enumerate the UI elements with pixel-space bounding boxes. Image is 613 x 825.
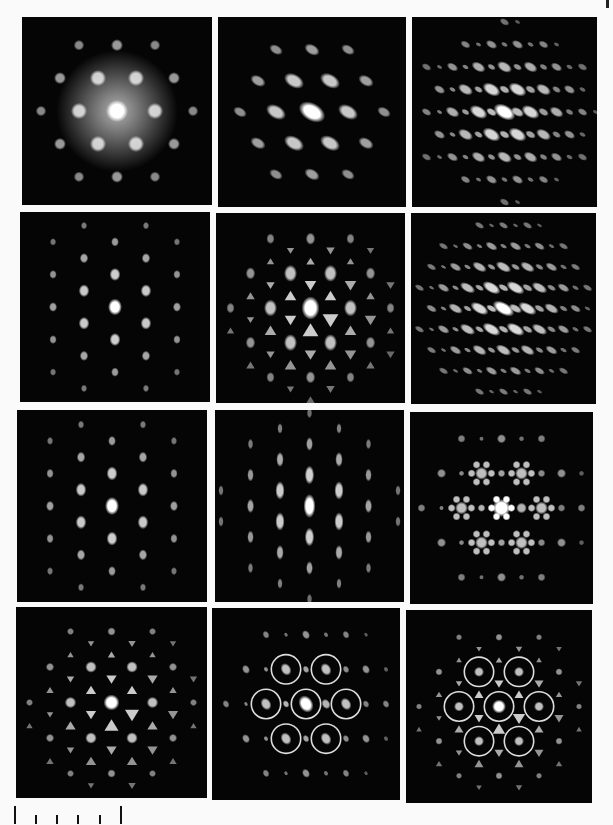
diffraction-panel-r4c3 — [406, 610, 592, 803]
diffraction-panel-r2c2 — [216, 213, 405, 403]
diffraction-panel-r2c3 — [411, 213, 596, 404]
diffraction-panel-r4c2 — [212, 608, 400, 800]
diffraction-panel-r1c3 — [412, 17, 597, 207]
diffraction-panel-r4c1 — [16, 607, 207, 798]
scale-bar — [14, 804, 124, 824]
scale-bar-tick — [14, 806, 16, 824]
diffraction-panel-r1c1 — [22, 17, 212, 205]
scale-bar-tick — [56, 815, 58, 824]
scale-bar-tick — [120, 806, 122, 824]
scale-bar-tick — [77, 815, 79, 824]
diffraction-panel-r3c1 — [17, 410, 207, 602]
diffraction-panel-r3c3 — [410, 412, 593, 604]
diffraction-panel-r2c1 — [20, 212, 210, 402]
scale-bar-tick — [99, 815, 101, 824]
diffraction-panel-r3c2 — [215, 410, 404, 602]
scale-bar-tick — [35, 815, 37, 824]
diffraction-panel-r1c2 — [218, 17, 406, 207]
corner-mark — [606, 0, 609, 8]
